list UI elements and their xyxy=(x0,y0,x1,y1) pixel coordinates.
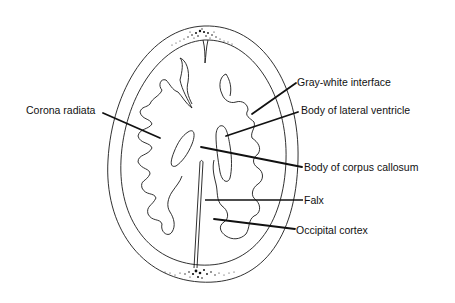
left-lateral-ventricle xyxy=(171,131,194,167)
right-frontal-tip xyxy=(226,74,231,96)
label-gray-white-interface: Gray-white interface xyxy=(297,76,391,88)
label-body-corpus-callosum: Body of corpus callosum xyxy=(304,161,418,173)
leader-body-corpus-callosum xyxy=(201,147,302,167)
label-body-lateral-ventricle: Body of lateral ventricle xyxy=(301,104,410,116)
leader-corona-radiata xyxy=(103,113,160,138)
skull-outer-outline xyxy=(108,26,298,282)
left-white-matter-outline xyxy=(138,58,192,234)
falx-line xyxy=(194,161,203,269)
interhemispheric-fissure xyxy=(203,40,208,63)
label-corona-radiata: Corona radiata xyxy=(26,104,95,116)
label-occipital-cortex: Occipital cortex xyxy=(296,224,368,236)
skull-inner-outline xyxy=(121,40,286,265)
brain-axial-diagram: Gray-white interface Body of lateral ven… xyxy=(0,0,455,303)
label-falx: Falx xyxy=(304,194,324,206)
leader-body-lateral-ventricle xyxy=(226,112,298,136)
brain-illustration xyxy=(0,0,455,303)
right-white-matter-outline xyxy=(213,74,262,239)
leader-occipital-cortex xyxy=(214,219,295,229)
